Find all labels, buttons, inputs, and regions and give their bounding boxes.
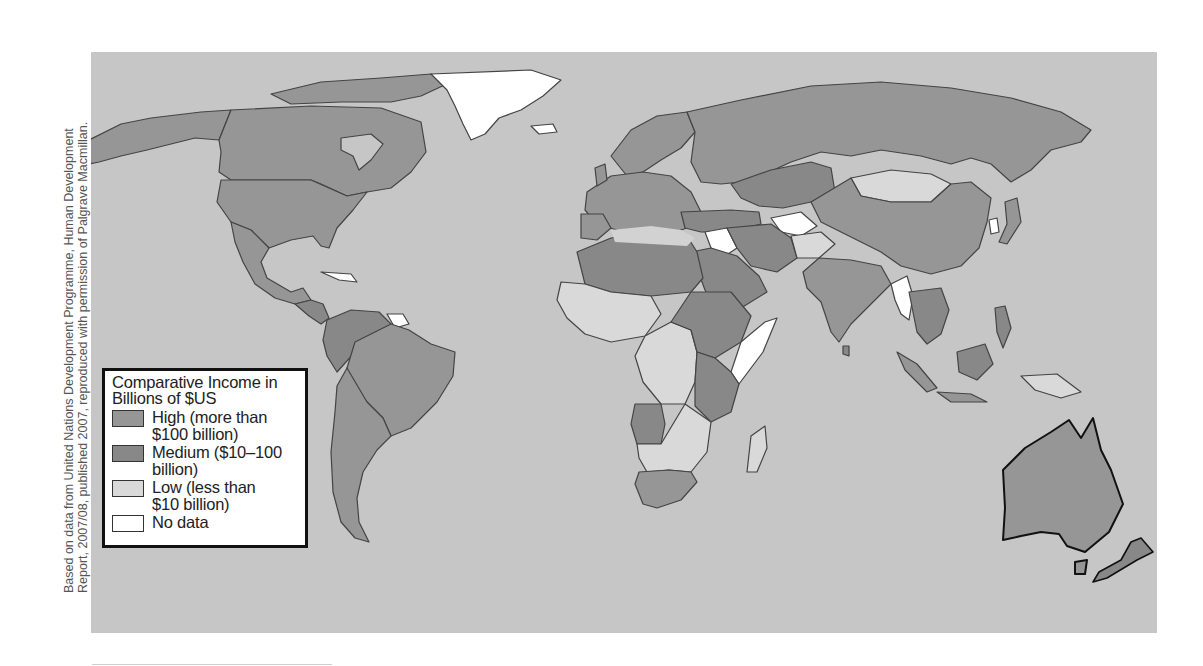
region-tasmania — [1075, 560, 1087, 574]
region-russia — [687, 82, 1091, 184]
region-india — [803, 258, 891, 342]
legend-swatch-medium — [112, 445, 144, 462]
region-central-america — [295, 300, 329, 324]
legend-title-line-1: Comparative Income in — [112, 374, 299, 390]
legend-item-high: High (more than $100 billion) — [112, 409, 299, 442]
region-north-korea — [989, 218, 999, 234]
legend-label-low: Low (less than $10 billion) — [152, 479, 256, 512]
region-alaska — [91, 110, 231, 164]
source-note-line-2: Report, 2007/08, published 2007, reprodu… — [76, 33, 90, 593]
legend-label-no-data: No data — [152, 514, 208, 531]
region-iceland — [531, 124, 557, 134]
legend-label-medium: Medium ($10–100 billion) — [152, 444, 282, 477]
region-australia — [1003, 418, 1123, 552]
legend-label-medium-line-1: Medium ($10–100 — [152, 444, 282, 461]
region-new-guinea — [1021, 374, 1081, 398]
region-java — [937, 392, 987, 402]
legend-label-low-line-2: $10 billion) — [152, 496, 256, 513]
region-scandinavia — [611, 112, 695, 176]
legend-swatch-low — [112, 480, 144, 497]
legend-item-medium: Medium ($10–100 billion) — [112, 444, 299, 477]
legend-label-no-data-line-1: No data — [152, 514, 208, 531]
region-southeast-asia — [909, 288, 949, 344]
region-madagascar — [747, 426, 767, 472]
region-new-zealand — [1093, 538, 1153, 582]
map-legend: Comparative Income in Billions of $US Hi… — [102, 368, 308, 548]
legend-label-medium-line-2: billion) — [152, 461, 282, 478]
legend-label-low-line-1: Low (less than — [152, 479, 256, 496]
region-sri-lanka — [843, 346, 849, 356]
region-angola — [631, 404, 665, 444]
region-cuba — [321, 272, 357, 282]
region-sumatra — [897, 352, 937, 392]
source-note: Based on data from United Nations Develo… — [62, 33, 92, 593]
legend-title-line-2: Billions of $US — [112, 390, 299, 406]
legend-label-high-line-1: High (more than — [152, 409, 267, 426]
region-afghanistan — [791, 232, 835, 258]
legend-item-no-data: No data — [112, 514, 299, 532]
bottom-divider — [92, 664, 332, 665]
region-borneo — [957, 344, 993, 380]
legend-swatch-high — [112, 410, 144, 427]
region-japan — [999, 198, 1021, 244]
legend-label-high: High (more than $100 billion) — [152, 409, 267, 442]
legend-label-high-line-2: $100 billion) — [152, 426, 267, 443]
region-south-africa — [635, 470, 697, 508]
legend-item-low: Low (less than $10 billion) — [112, 479, 299, 512]
legend-swatch-no-data — [112, 515, 144, 532]
region-east-africa — [695, 352, 739, 422]
region-canada-arctic-islands — [271, 74, 451, 104]
source-note-line-1: Based on data from United Nations Develo… — [62, 33, 76, 593]
region-philippines — [995, 306, 1011, 348]
legend-title: Comparative Income in Billions of $US — [112, 374, 299, 406]
